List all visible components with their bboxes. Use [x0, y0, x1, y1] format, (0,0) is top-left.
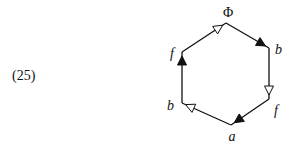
vertex-label-lower-right: f [274, 103, 280, 118]
open-arrowhead-icon [186, 104, 196, 112]
open-arrowhead-icon [213, 25, 223, 34]
filled-arrowhead-icon [178, 56, 187, 65]
vertex-label-top: Φ [223, 5, 233, 20]
vertex-label-lower-left: b [167, 98, 174, 113]
filled-arrowhead-icon [256, 38, 266, 46]
vertex-label-bottom: a [229, 129, 236, 144]
open-arrowhead-icon [265, 86, 274, 95]
vertex-label-upper-right: b [275, 42, 282, 57]
hexagon-diagram: Φbfabf [0, 0, 299, 151]
filled-arrowhead-icon [234, 114, 244, 123]
vertex-label-upper-left: f [170, 46, 176, 61]
